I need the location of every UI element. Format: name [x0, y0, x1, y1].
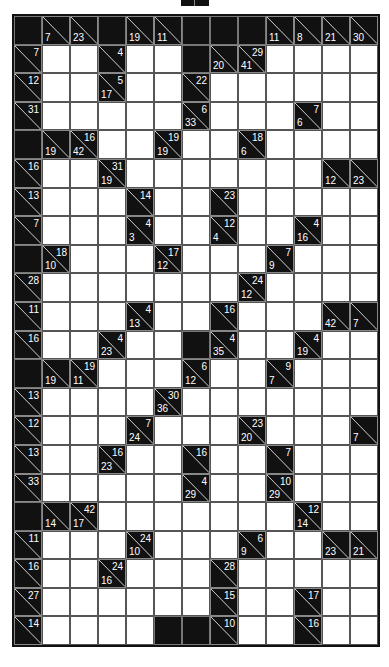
entry-cell[interactable] — [42, 273, 70, 302]
entry-cell[interactable] — [98, 416, 126, 445]
entry-cell[interactable] — [238, 502, 266, 531]
entry-cell[interactable] — [70, 45, 98, 74]
entry-cell[interactable] — [322, 388, 350, 417]
entry-cell[interactable] — [294, 531, 322, 560]
entry-cell[interactable] — [350, 616, 378, 645]
entry-cell[interactable] — [350, 359, 378, 388]
entry-cell[interactable] — [238, 216, 266, 245]
entry-cell[interactable] — [154, 331, 182, 360]
entry-cell[interactable] — [98, 216, 126, 245]
entry-cell[interactable] — [322, 588, 350, 617]
entry-cell[interactable] — [98, 102, 126, 131]
entry-cell[interactable] — [98, 188, 126, 217]
entry-cell[interactable] — [126, 273, 154, 302]
entry-cell[interactable] — [322, 616, 350, 645]
entry-cell[interactable] — [70, 245, 98, 274]
entry-cell[interactable] — [182, 188, 210, 217]
entry-cell[interactable] — [294, 45, 322, 74]
entry-cell[interactable] — [126, 331, 154, 360]
entry-cell[interactable] — [238, 245, 266, 274]
entry-cell[interactable] — [154, 559, 182, 588]
entry-cell[interactable] — [126, 45, 154, 74]
entry-cell[interactable] — [210, 273, 238, 302]
entry-cell[interactable] — [210, 159, 238, 188]
entry-cell[interactable] — [98, 273, 126, 302]
entry-cell[interactable] — [266, 73, 294, 102]
entry-cell[interactable] — [154, 159, 182, 188]
entry-cell[interactable] — [42, 159, 70, 188]
entry-cell[interactable] — [42, 559, 70, 588]
entry-cell[interactable] — [238, 102, 266, 131]
entry-cell[interactable] — [322, 73, 350, 102]
entry-cell[interactable] — [350, 245, 378, 274]
entry-cell[interactable] — [238, 588, 266, 617]
entry-cell[interactable] — [42, 102, 70, 131]
entry-cell[interactable] — [98, 502, 126, 531]
entry-cell[interactable] — [350, 502, 378, 531]
entry-cell[interactable] — [98, 130, 126, 159]
entry-cell[interactable] — [70, 73, 98, 102]
entry-cell[interactable] — [266, 159, 294, 188]
entry-cell[interactable] — [42, 474, 70, 503]
entry-cell[interactable] — [126, 474, 154, 503]
entry-cell[interactable] — [266, 302, 294, 331]
entry-cell[interactable] — [126, 73, 154, 102]
entry-cell[interactable] — [350, 445, 378, 474]
entry-cell[interactable] — [154, 188, 182, 217]
entry-cell[interactable] — [210, 531, 238, 560]
entry-cell[interactable] — [238, 188, 266, 217]
entry-cell[interactable] — [210, 359, 238, 388]
entry-cell[interactable] — [154, 302, 182, 331]
entry-cell[interactable] — [182, 531, 210, 560]
entry-cell[interactable] — [294, 302, 322, 331]
entry-cell[interactable] — [238, 159, 266, 188]
entry-cell[interactable] — [294, 416, 322, 445]
entry-cell[interactable] — [238, 388, 266, 417]
entry-cell[interactable] — [182, 130, 210, 159]
entry-cell[interactable] — [70, 273, 98, 302]
entry-cell[interactable] — [182, 216, 210, 245]
entry-cell[interactable] — [238, 559, 266, 588]
entry-cell[interactable] — [154, 73, 182, 102]
entry-cell[interactable] — [322, 331, 350, 360]
entry-cell[interactable] — [210, 445, 238, 474]
entry-cell[interactable] — [126, 359, 154, 388]
entry-cell[interactable] — [350, 474, 378, 503]
entry-cell[interactable] — [42, 531, 70, 560]
entry-cell[interactable] — [266, 102, 294, 131]
entry-cell[interactable] — [238, 73, 266, 102]
entry-cell[interactable] — [294, 474, 322, 503]
entry-cell[interactable] — [322, 416, 350, 445]
entry-cell[interactable] — [266, 616, 294, 645]
entry-cell[interactable] — [126, 445, 154, 474]
entry-cell[interactable] — [238, 359, 266, 388]
entry-cell[interactable] — [350, 388, 378, 417]
entry-cell[interactable] — [238, 331, 266, 360]
entry-cell[interactable] — [210, 388, 238, 417]
entry-cell[interactable] — [350, 216, 378, 245]
entry-cell[interactable] — [42, 331, 70, 360]
entry-cell[interactable] — [70, 559, 98, 588]
entry-cell[interactable] — [70, 474, 98, 503]
entry-cell[interactable] — [126, 245, 154, 274]
entry-cell[interactable] — [322, 188, 350, 217]
entry-cell[interactable] — [182, 159, 210, 188]
entry-cell[interactable] — [266, 188, 294, 217]
entry-cell[interactable] — [322, 130, 350, 159]
entry-cell[interactable] — [350, 130, 378, 159]
entry-cell[interactable] — [182, 559, 210, 588]
entry-cell[interactable] — [238, 474, 266, 503]
entry-cell[interactable] — [322, 273, 350, 302]
entry-cell[interactable] — [322, 474, 350, 503]
entry-cell[interactable] — [70, 616, 98, 645]
entry-cell[interactable] — [154, 474, 182, 503]
entry-cell[interactable] — [210, 416, 238, 445]
entry-cell[interactable] — [322, 102, 350, 131]
entry-cell[interactable] — [98, 616, 126, 645]
entry-cell[interactable] — [182, 245, 210, 274]
entry-cell[interactable] — [266, 216, 294, 245]
entry-cell[interactable] — [294, 445, 322, 474]
entry-cell[interactable] — [266, 559, 294, 588]
entry-cell[interactable] — [154, 216, 182, 245]
entry-cell[interactable] — [294, 188, 322, 217]
